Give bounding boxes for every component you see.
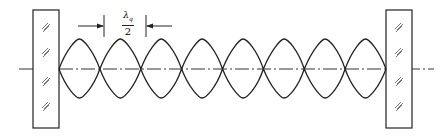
label-numerator: λq — [123, 10, 133, 24]
half-wavelength-label: λq 2 — [110, 10, 146, 37]
wave-upper-envelope — [59, 39, 386, 69]
lambda-subscript: q — [129, 15, 133, 22]
label-denominator: 2 — [125, 27, 131, 37]
arrowhead-left-icon — [146, 24, 153, 29]
right-mirror — [386, 10, 412, 128]
standing-wave-diagram — [0, 0, 447, 138]
left-mirror — [33, 10, 59, 128]
arrowhead-right-icon — [97, 24, 104, 29]
wave-lower-envelope — [59, 69, 386, 98]
